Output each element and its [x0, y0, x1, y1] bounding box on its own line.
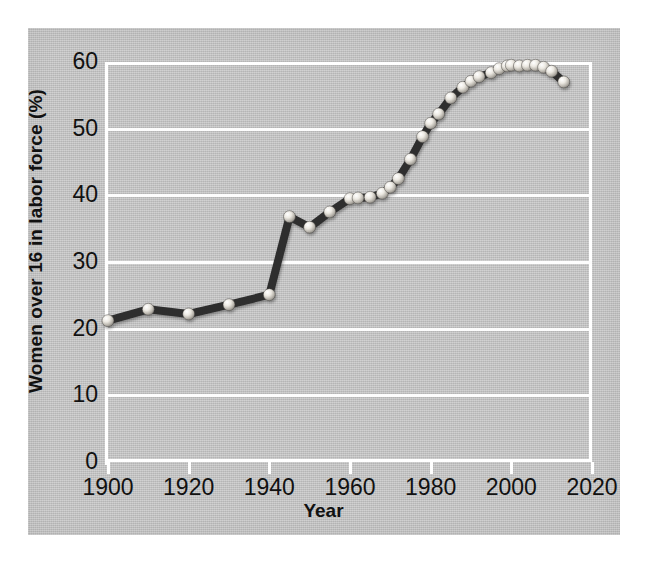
- y-tick-label: 50: [38, 117, 98, 140]
- y-tick-label: 10: [38, 383, 98, 406]
- plot-area: [108, 62, 592, 462]
- x-tick-mark: [188, 462, 191, 474]
- figure-root: Women over 16 in labor force (%) 0102030…: [0, 0, 647, 563]
- x-tick-label: 2020: [532, 476, 647, 499]
- x-tick-mark: [510, 462, 513, 474]
- x-tick-mark: [349, 462, 352, 474]
- y-tick-label: 30: [38, 250, 98, 273]
- gridline-horizontal: [108, 261, 592, 264]
- gridline-horizontal: [108, 128, 592, 131]
- y-tick-label: 40: [38, 183, 98, 206]
- x-tick-mark: [268, 462, 271, 474]
- y-tick-label: 60: [38, 50, 98, 73]
- x-tick-mark: [430, 462, 433, 474]
- y-tick-label: 20: [38, 317, 98, 340]
- gridline-horizontal: [108, 328, 592, 331]
- y-tick-label: 0: [38, 450, 98, 473]
- x-tick-mark: [591, 462, 594, 474]
- x-axis-title: Year: [0, 500, 647, 522]
- plot-frame-top: [108, 62, 592, 65]
- gridline-horizontal: [108, 394, 592, 397]
- x-tick-mark: [107, 462, 110, 474]
- gridline-horizontal: [108, 194, 592, 197]
